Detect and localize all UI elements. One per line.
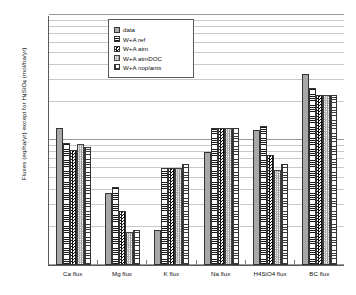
legend-item[interactable]: W+A ref [114, 36, 188, 43]
bar[interactable] [274, 170, 281, 265]
bar-group [49, 16, 98, 265]
legend-label: W+A atm [123, 45, 148, 52]
plot-area: 100100010000 [48, 16, 344, 266]
bar[interactable] [281, 164, 288, 265]
y-axis-title-mid: SiO [20, 83, 27, 94]
bar[interactable] [232, 128, 239, 265]
bar[interactable] [225, 128, 232, 265]
bar[interactable] [260, 126, 267, 265]
bar-group [246, 16, 295, 265]
bar[interactable] [323, 95, 330, 265]
legend-label: W+A noplants [123, 64, 161, 71]
legend-swatch [114, 27, 120, 33]
bar[interactable] [77, 144, 84, 265]
bar[interactable] [218, 128, 225, 265]
chart-legend: dataW+A refW+A atmW+A atmDOCW+A noplants [108, 19, 194, 78]
bar[interactable] [253, 130, 260, 265]
chart-container: Fluxes (eq/ha/yr) except for H4SiO4 (mol… [0, 0, 356, 295]
bar[interactable] [182, 164, 189, 265]
bar-groups [49, 16, 344, 265]
y-axis-title-sub2: 4 [23, 80, 28, 83]
bar[interactable] [154, 230, 161, 265]
legend-item[interactable]: data [114, 26, 188, 33]
bar[interactable] [63, 143, 70, 265]
bar[interactable] [126, 232, 133, 265]
x-axis-tick-label: BC flux [295, 270, 344, 277]
bar[interactable] [84, 147, 91, 265]
bar[interactable] [330, 95, 337, 265]
bar[interactable] [175, 168, 182, 265]
bar[interactable] [211, 128, 218, 265]
bar[interactable] [133, 230, 140, 265]
bar[interactable] [161, 168, 168, 265]
bar[interactable] [168, 168, 175, 265]
y-axis-title-sub1: 4 [23, 93, 28, 96]
legend-swatch [114, 36, 120, 42]
x-axis-tick-label: H4SiO4 flux [245, 270, 294, 277]
legend-item[interactable]: W+A atm [114, 45, 188, 52]
x-axis-labels: Ca fluxMg fluxK fluxNa fluxH4SiO4 fluxBC… [48, 270, 344, 277]
bar[interactable] [56, 128, 63, 265]
x-axis-tick-label: Na flux [196, 270, 245, 277]
bar[interactable] [70, 150, 77, 265]
x-axis-tick-label: Mg flux [97, 270, 146, 277]
bar[interactable] [309, 88, 316, 265]
bar[interactable] [112, 187, 119, 265]
legend-swatch [114, 64, 120, 70]
legend-item[interactable]: W+A atmDOC [114, 55, 188, 62]
gridline [49, 14, 344, 15]
y-axis-title: Fluxes (eq/ha/yr) except for H4SiO4 (mol… [20, 4, 28, 224]
bar[interactable] [302, 74, 309, 265]
x-axis-tick-label: Ca flux [48, 270, 97, 277]
y-axis-title-text: Fluxes (eq/ha/yr) except for H [20, 96, 27, 181]
legend-label: W+A atmDOC [123, 55, 162, 62]
bar-group [295, 16, 344, 265]
y-axis-title-end: (mol/ha/yr) [20, 48, 27, 81]
legend-label: data [123, 26, 135, 33]
legend-swatch [114, 46, 120, 52]
bar-group [197, 16, 246, 265]
legend-item[interactable]: W+A noplants [114, 64, 188, 71]
bar[interactable] [119, 211, 126, 265]
bar[interactable] [316, 95, 323, 265]
bar[interactable] [105, 193, 112, 265]
bar[interactable] [204, 152, 211, 265]
legend-swatch [114, 55, 120, 61]
x-axis-tick-label: K flux [147, 270, 196, 277]
bar[interactable] [267, 155, 274, 265]
legend-label: W+A ref [123, 36, 145, 43]
